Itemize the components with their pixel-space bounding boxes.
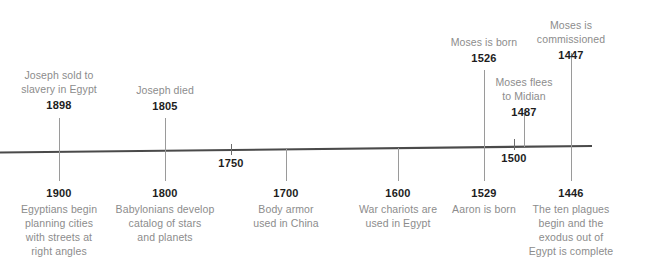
- timeline-diagram: 1750 1500 Joseph sold to slavery in Egyp…: [0, 0, 649, 278]
- connector-1600: [398, 148, 399, 181]
- event-description: Moses flees to Midian: [464, 75, 584, 103]
- event-above-1447: Moses is commissioned 1447: [511, 18, 631, 63]
- event-description: Joseph died: [90, 83, 240, 97]
- connector-1529: [484, 147, 485, 181]
- connector-1805: [165, 118, 166, 151]
- event-year: 1805: [90, 99, 240, 114]
- connector-1700: [286, 149, 287, 181]
- event-above-1487: Moses flees to Midian 1487: [464, 75, 584, 120]
- event-below-1446: 1446 The ten plagues begin and the exodu…: [496, 186, 646, 258]
- axis-tick-label-1750: 1750: [207, 157, 255, 169]
- connector-1800: [165, 151, 166, 181]
- axis-tick-1500: [514, 139, 515, 150]
- connector-1898: [59, 118, 60, 152]
- event-year: 1487: [464, 105, 584, 120]
- axis-tick-1750: [231, 144, 232, 155]
- event-description: Moses is commissioned: [511, 18, 631, 46]
- connector-1446: [571, 145, 572, 181]
- connector-1900: [59, 152, 60, 181]
- axis-tick-label-1500: 1500: [490, 152, 538, 164]
- event-above-1805: Joseph died 1805: [90, 83, 240, 114]
- event-year: 1447: [511, 48, 631, 63]
- event-year: 1446: [496, 186, 646, 201]
- event-description: The ten plagues begin and the exodus out…: [496, 202, 646, 258]
